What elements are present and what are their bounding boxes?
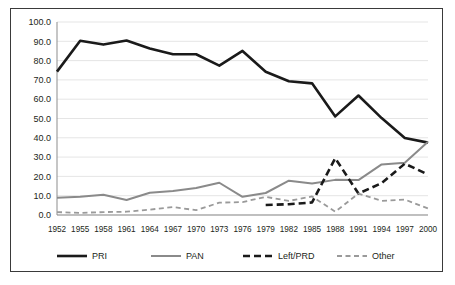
x-tick-label: 1994 <box>373 225 392 234</box>
legend-label-other: Other <box>372 251 395 261</box>
x-tick-label: 1997 <box>396 225 415 234</box>
y-tick-label: 90.0 <box>33 37 51 47</box>
legend-label-pan: PAN <box>186 251 204 261</box>
chart-legend: PRIPANLeft/PRDOther <box>57 251 395 261</box>
y-tick-label: 30.0 <box>33 152 51 162</box>
y-tick-label: 20.0 <box>33 172 51 182</box>
series-line-pan <box>57 142 428 200</box>
series-line-pri <box>57 41 428 143</box>
y-tick-label: 80.0 <box>33 56 51 66</box>
x-tick-label: 1967 <box>164 225 183 234</box>
y-tick-label: 70.0 <box>33 75 51 85</box>
x-tick-label: 1979 <box>257 225 276 234</box>
chart-figure: 0.010.020.030.040.050.060.070.080.090.01… <box>10 8 443 272</box>
line-chart: 0.010.020.030.040.050.060.070.080.090.01… <box>11 9 442 271</box>
y-tick-label: 10.0 <box>33 191 51 201</box>
x-tick-label: 1985 <box>303 225 322 234</box>
x-tick-label: 1988 <box>326 225 345 234</box>
x-tick-label: 2000 <box>419 225 438 234</box>
x-tick-label: 1958 <box>94 225 113 234</box>
y-tick-label: 100.0 <box>28 17 51 27</box>
legend-label-pri: PRI <box>92 251 107 261</box>
y-tick-label: 50.0 <box>33 114 51 124</box>
x-tick-label: 1961 <box>117 225 136 234</box>
x-axis-tick-labels: 1952195519581961196419671970197319761979… <box>48 225 438 234</box>
legend-label-left-prd: Left/PRD <box>278 251 315 261</box>
y-tick-label: 40.0 <box>33 133 51 143</box>
series-lines <box>57 41 428 213</box>
y-tick-label: 60.0 <box>33 94 51 104</box>
x-tick-label: 1970 <box>187 225 206 234</box>
y-axis-tick-labels: 0.010.020.030.040.050.060.070.080.090.01… <box>28 17 51 220</box>
x-tick-label: 1976 <box>233 225 252 234</box>
x-tick-label: 1991 <box>349 225 368 234</box>
x-tick-label: 1982 <box>280 225 299 234</box>
x-tick-label: 1955 <box>71 225 90 234</box>
x-tick-label: 1973 <box>210 225 229 234</box>
y-tick-label: 0.0 <box>38 210 51 220</box>
x-tick-label: 1952 <box>48 225 67 234</box>
x-tick-label: 1964 <box>141 225 160 234</box>
